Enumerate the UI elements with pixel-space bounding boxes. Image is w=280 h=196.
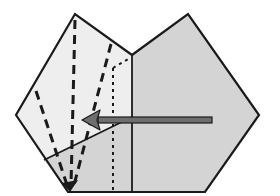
origami-diagram: Origami folding step [0, 0, 280, 196]
diagram-canvas [0, 0, 280, 196]
